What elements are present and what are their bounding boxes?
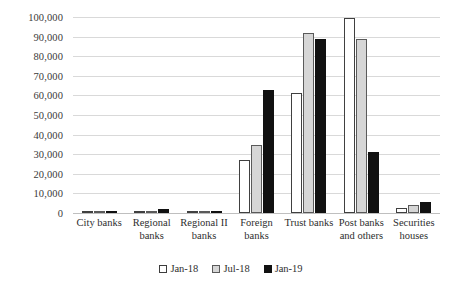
legend-swatch-icon <box>212 265 220 273</box>
y-axis-tick-label: 20,000 <box>34 168 63 179</box>
bar-group <box>73 17 125 213</box>
bar-group <box>388 17 440 213</box>
legend-item[interactable]: Jan-18 <box>159 263 198 274</box>
x-axis: City banksRegionalbanksRegional IIbanksF… <box>73 216 440 260</box>
legend-item[interactable]: Jul-18 <box>212 263 249 274</box>
y-axis-tick-label: 50,000 <box>34 110 63 121</box>
x-axis-category-line: City banks <box>73 216 125 229</box>
x-axis-category-line: Securities <box>388 216 440 229</box>
x-axis-category-line: Post banks <box>335 216 387 229</box>
y-axis-tick-label: 60,000 <box>34 90 63 101</box>
y-axis-tick-label: 30,000 <box>34 149 63 160</box>
y-axis-tick-label: 70,000 <box>34 70 63 81</box>
legend-label: Jan-18 <box>170 263 198 274</box>
x-axis-category-line: houses <box>388 229 440 242</box>
y-axis-tick-label: 0 <box>58 208 63 219</box>
y-axis-tick-label: 80,000 <box>34 51 63 62</box>
bar-group <box>178 17 230 213</box>
bar <box>158 209 169 213</box>
bar <box>396 208 407 213</box>
legend-swatch-icon <box>159 265 167 273</box>
x-axis-category-label: Trust banks <box>283 216 335 229</box>
bar <box>239 160 250 213</box>
bar <box>187 211 198 213</box>
y-axis-tick-label: 90,000 <box>34 31 63 42</box>
x-axis-category-line: Regional II <box>178 216 230 229</box>
bar <box>146 211 157 213</box>
x-axis-category-line: Foreign <box>230 216 282 229</box>
bar <box>199 211 210 213</box>
x-axis-category-label: Foreignbanks <box>230 216 282 242</box>
bar <box>408 205 419 213</box>
bar-group <box>230 17 282 213</box>
bar-group <box>125 17 177 213</box>
axis-baseline <box>73 213 440 214</box>
bar <box>106 211 117 213</box>
bar <box>211 211 222 213</box>
bar <box>251 145 262 213</box>
x-axis-category-line: Regional <box>125 216 177 229</box>
x-axis-category-line: banks <box>178 229 230 242</box>
x-axis-category-line: banks <box>125 229 177 242</box>
chart-legend: Jan-18Jul-18Jan-19 <box>0 263 462 274</box>
x-axis-category-line: and others <box>335 229 387 242</box>
legend-label: Jan-19 <box>275 263 303 274</box>
bar <box>263 90 274 213</box>
y-axis-tick-label: 40,000 <box>34 129 63 140</box>
bar-chart: 100,00090,00080,00070,00060,00050,00040,… <box>0 0 462 289</box>
y-axis-tick-label: 100,000 <box>28 12 63 23</box>
x-axis-category-label: Post banksand others <box>335 216 387 242</box>
x-axis-category-label: Securitieshouses <box>388 216 440 242</box>
bar-layer <box>73 17 440 213</box>
bar <box>368 152 379 213</box>
x-axis-category-line: Trust banks <box>283 216 335 229</box>
x-axis-category-label: City banks <box>73 216 125 229</box>
bar <box>344 18 355 213</box>
legend-label: Jul-18 <box>223 263 249 274</box>
bar <box>134 211 145 213</box>
bar <box>356 39 367 213</box>
bar <box>420 202 431 213</box>
bar-group <box>283 17 335 213</box>
bar <box>94 211 105 213</box>
legend-item[interactable]: Jan-19 <box>264 263 303 274</box>
y-axis: 100,00090,00080,00070,00060,00050,00040,… <box>0 0 68 230</box>
bar <box>315 39 326 213</box>
x-axis-category-label: Regional IIbanks <box>178 216 230 242</box>
bar <box>82 211 93 213</box>
x-axis-category-line: banks <box>230 229 282 242</box>
bar <box>303 33 314 213</box>
plot-area <box>73 17 440 213</box>
bar-group <box>335 17 387 213</box>
bar <box>291 93 302 213</box>
x-axis-category-label: Regionalbanks <box>125 216 177 242</box>
y-axis-tick-label: 10,000 <box>34 188 63 199</box>
legend-swatch-icon <box>264 265 272 273</box>
